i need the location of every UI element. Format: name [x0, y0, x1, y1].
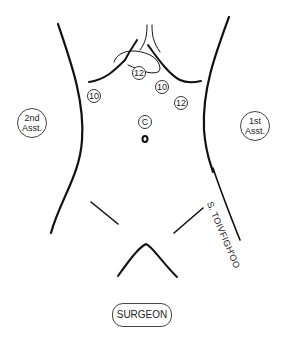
- second-assistant-position: 2nd Asst.: [17, 108, 47, 138]
- port-12-right: 12: [174, 96, 188, 110]
- left-costal-margin: [89, 40, 137, 82]
- torso-outline: [0, 0, 286, 344]
- right-costal-margin: [148, 45, 201, 82]
- left-inguinal-line: [91, 202, 118, 224]
- umbilicus: [143, 136, 148, 142]
- port-camera: C: [138, 115, 152, 129]
- falciform-right: [152, 25, 160, 52]
- port-10-left: 10: [87, 89, 101, 103]
- port-12-upper: 12: [132, 66, 146, 80]
- first-assistant-position: 1st Asst.: [240, 111, 270, 141]
- pubic-line: [118, 244, 177, 277]
- right-flank-line: [204, 17, 229, 172]
- left-flank-line: [51, 24, 82, 233]
- right-inguinal-line: [174, 208, 203, 233]
- port-10-right: 10: [155, 80, 169, 94]
- falciform-left: [140, 25, 147, 50]
- surgeon-position: SURGEON: [112, 303, 172, 327]
